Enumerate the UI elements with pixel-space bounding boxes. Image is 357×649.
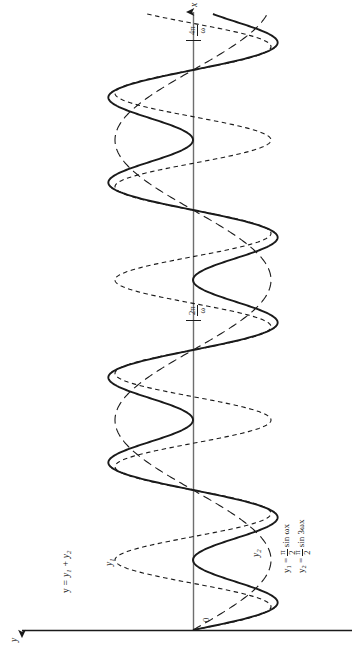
equation-y1-lhs: y1 (281, 565, 291, 573)
fraction-4pi-omega: 4π ω (188, 25, 207, 36)
x-axis (186, 12, 201, 630)
curve-label-y1: y1 (105, 558, 116, 566)
equation-y1-rhs: sin ωx (281, 524, 291, 547)
fraction-denominator: ω (198, 305, 207, 316)
fraction-denominator: ω (198, 25, 207, 36)
x-tick-label-4pi-over-omega: 4π ω (188, 25, 207, 36)
equation-y2-lhs: y2 (296, 565, 306, 573)
figure-container: 4π ω 2π ω 0 x y y = y1 + y2 y1 y2 y1 = π… (0, 0, 357, 649)
curve-label-y2: y2 (252, 549, 263, 557)
equation-y2: y2 = π 2 sin 3ωx (293, 519, 312, 573)
y-axis-label: y (10, 638, 20, 642)
fraction-denominator: 2 (303, 549, 312, 555)
x-tick-label-2pi-over-omega: 2π ω (188, 305, 207, 316)
equation-y2-rhs: sin 3ωx (296, 519, 306, 547)
x-axis-label: x (190, 3, 200, 7)
equation-y2-equals: = (296, 556, 306, 563)
fraction-pi-over-2: π 2 (293, 549, 312, 555)
equation-y1-equals: = (281, 556, 291, 563)
origin-label: 0 (202, 618, 211, 622)
curve-label-sum: y = y1 + y2 (62, 551, 73, 593)
fraction-2pi-omega: 2π ω (188, 305, 207, 316)
